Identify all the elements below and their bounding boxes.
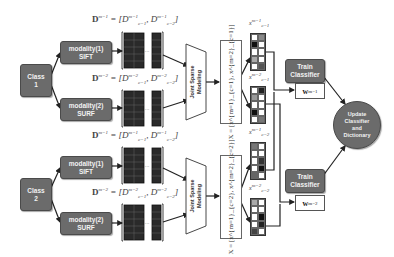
sparse-vector-label-2: xm=2c=1: [249, 72, 269, 82]
vector-cell: [251, 150, 258, 157]
joint-sparse-modeling-label-1: Joint Sparse Modeling: [189, 57, 203, 107]
vector-cell: [251, 41, 258, 48]
vector-cell: [251, 56, 258, 63]
svg-text:···: ···: [145, 106, 150, 112]
jsm-line2: Modeling: [196, 171, 203, 221]
vector-cell: [251, 143, 258, 150]
weight-box-1: wm=1: [295, 83, 325, 99]
sparse-vector-label-3: xm=1c=2: [249, 127, 269, 137]
vector-cell: [251, 221, 258, 228]
x-matrix-formula: X = [x^{m=1}_{c=2}, x^{m=2}_{c=2}]: [227, 139, 235, 254]
svg-text:···: ···: [145, 48, 150, 54]
sparse-vector-grid-1: [250, 33, 266, 71]
dictionary-matrix-1: ···: [122, 32, 163, 69]
vector-cell: [258, 109, 265, 116]
vector-cell: [258, 199, 265, 206]
sparse-vector-grid-4: [250, 198, 266, 236]
vector-cell: [258, 48, 265, 55]
update-line1: Update: [348, 111, 367, 118]
dictionary-matrix-3: ···: [122, 147, 163, 184]
vector-cell: [251, 165, 258, 172]
update-classifier-dictionary-node: Update Classifier and Dictionary: [333, 101, 381, 149]
vector-cell: [258, 172, 265, 179]
vector-cell: [258, 143, 265, 150]
vector-cell: [258, 94, 265, 101]
vector-cell: [258, 150, 265, 157]
sparse-vector-grid-2: [250, 86, 266, 124]
vector-cell: [258, 213, 265, 220]
jsm-line1: Joint Sparse: [189, 171, 196, 221]
classifier-label: Classifier: [290, 71, 319, 79]
vector-cell: [251, 206, 258, 213]
dictionary-matrix-4: ···: [122, 204, 163, 241]
update-line4: Dictionary: [344, 132, 371, 139]
train-classifier-box-2: Train Classifier: [285, 169, 325, 193]
vector-cell: [251, 34, 258, 41]
jsm-line1: Joint Sparse: [189, 57, 196, 107]
vector-cell: [251, 172, 258, 179]
vector-cell: [258, 116, 265, 123]
sparse-vector-label-1: xm=1c=1: [249, 18, 269, 28]
train-classifier-box-1: Train Classifier: [285, 59, 325, 83]
update-line2: Classifier: [345, 118, 370, 125]
vector-cell: [258, 63, 265, 70]
vector-cell: [251, 157, 258, 164]
vector-cell: [251, 199, 258, 206]
vector-cell: [251, 116, 258, 123]
vector-cell: [251, 109, 258, 116]
x-matrix-formula: X = [x^{m=1}_{c=1}, x^{m=2}_{c=1}]: [227, 24, 235, 139]
vector-cell: [258, 56, 265, 63]
vector-cell: [258, 228, 265, 235]
vector-cell: [251, 101, 258, 108]
vector-cell: [258, 41, 265, 48]
sparse-coefficient-matrix-1: X = [x^{m=1}_{c=1}, x^{m=2}_{c=1}]: [220, 40, 242, 124]
vector-cell: [258, 101, 265, 108]
vector-cell: [258, 34, 265, 41]
vector-cell: [251, 63, 258, 70]
vector-cell: [258, 87, 265, 94]
classifier-label: Classifier: [290, 181, 319, 189]
sparse-vector-grid-3: [250, 142, 266, 180]
vector-cell: [251, 213, 258, 220]
train-label: Train: [297, 63, 313, 71]
vector-cell: [251, 87, 258, 94]
sparse-coefficient-matrix-2: X = [x^{m=1}_{c=2}, x^{m=2}_{c=2}]: [220, 155, 242, 239]
vector-cell: [258, 206, 265, 213]
dictionary-matrix-2: ···: [122, 90, 163, 127]
update-line3: and: [352, 125, 362, 132]
vector-cell: [251, 48, 258, 55]
vector-cell: [258, 157, 265, 164]
train-label: Train: [297, 173, 313, 181]
sparse-vector-label-4: xm=2c=2: [249, 183, 269, 193]
vector-cell: [251, 228, 258, 235]
weight-box-2: wm=2: [295, 195, 325, 211]
svg-text:···: ···: [145, 220, 150, 226]
vector-cell: [251, 94, 258, 101]
jsm-line2: Modeling: [196, 57, 203, 107]
vector-cell: [258, 165, 265, 172]
joint-sparse-modeling-label-2: Joint Sparse Modeling: [189, 171, 203, 221]
svg-text:···: ···: [145, 163, 150, 169]
vector-cell: [258, 221, 265, 228]
